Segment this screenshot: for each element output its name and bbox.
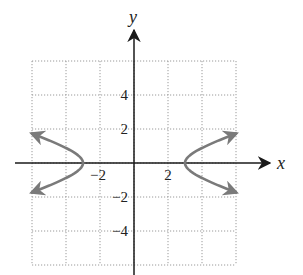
x-tick-label: 2 xyxy=(164,167,172,183)
y-tick-label: −2 xyxy=(112,189,128,205)
y-axis-label: y xyxy=(127,7,137,27)
right-branch-upper xyxy=(185,134,236,163)
y-tick-label: 2 xyxy=(121,121,129,137)
x-tick-label: −2 xyxy=(90,167,106,183)
right-branch-lower xyxy=(185,163,236,192)
left-branch-upper xyxy=(32,134,83,163)
y-tick-label: 4 xyxy=(121,87,129,103)
left-branch-lower xyxy=(32,163,83,192)
hyperbola-graph: −2242−2−4 x y xyxy=(0,0,303,275)
x-axis-label: x xyxy=(276,153,285,173)
axes xyxy=(15,30,270,275)
y-tick-label: −4 xyxy=(112,223,128,239)
